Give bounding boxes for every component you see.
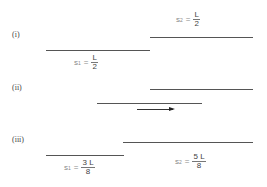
s1-subscript: 1 [68,165,71,171]
lower-plank-line [46,155,124,156]
fraction: 3 L 8 [81,159,94,176]
equals-sign: = [74,163,79,172]
panel-label-i: (i) [12,30,20,39]
s2-equation: s2 = 5 L 8 [175,153,206,170]
denominator: 8 [86,168,90,176]
s2-equation: s2 = L 2 [176,11,200,28]
s1-subscript: 1 [78,60,81,66]
s1-equation: s1 = 3 L 8 [64,159,95,176]
lower-plank-line [46,50,150,51]
denominator: 2 [92,63,96,71]
s1-equation: s1 = L 2 [74,54,98,71]
equals-sign: = [185,157,190,166]
s2-subscript: 2 [179,159,182,165]
denominator: 8 [197,162,201,170]
denominator: 2 [194,20,198,28]
equals-sign: = [186,15,191,24]
panel-label-iii: (iii) [12,135,24,144]
equals-sign: = [84,58,89,67]
upper-plank-line [123,142,253,143]
right-arrow-icon [137,109,173,110]
upper-plank-line [150,37,253,38]
upper-plank-line [150,89,253,90]
panel-label-ii: (ii) [12,83,22,92]
lower-plank-line [97,103,202,104]
fraction: L 2 [91,54,97,71]
fraction: L 2 [193,11,199,28]
s2-subscript: 2 [180,17,183,23]
fraction: 5 L 8 [192,153,205,170]
